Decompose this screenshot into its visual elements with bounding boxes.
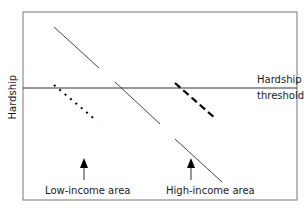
- dotted-line: [54, 85, 97, 121]
- low-income-arrow-head: [80, 158, 88, 168]
- diagram-canvas: [0, 0, 308, 216]
- low-income-label: Low-income area: [45, 185, 130, 197]
- high-income-label: High-income area: [166, 185, 255, 197]
- threshold-label-line1: Hardship: [257, 74, 302, 86]
- plot-frame: [23, 12, 297, 200]
- line-upper-left: [54, 27, 99, 68]
- high-income-arrow-head: [187, 158, 195, 168]
- y-axis-label: Hardship: [7, 80, 18, 120]
- line-lower-right: [175, 139, 222, 182]
- threshold-label-line2: threshold: [257, 90, 304, 102]
